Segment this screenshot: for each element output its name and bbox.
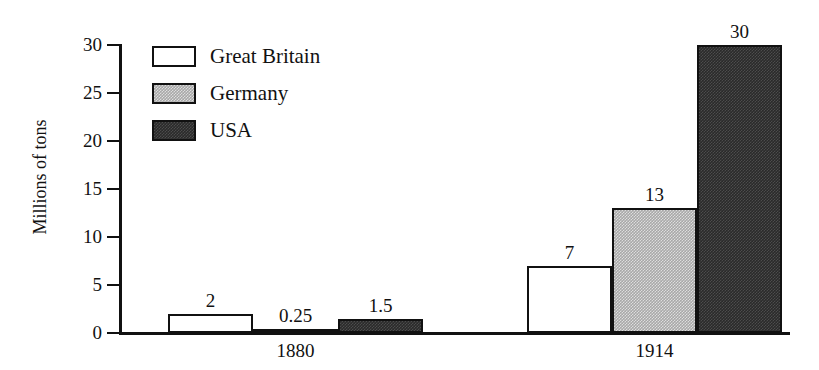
y-axis-tick [107, 140, 120, 142]
bar-1880-usa [338, 319, 423, 333]
bar-value-label: 1.5 [338, 296, 423, 315]
y-axis-tick-label: 20 [32, 131, 102, 150]
y-axis-tick-label-wrap: 25 [22, 83, 102, 102]
x-axis-group-label-1914: 1914 [595, 341, 715, 360]
legend-swatch-icon [152, 120, 196, 141]
bar-value-label: 2 [168, 291, 253, 310]
y-axis-tick-label-wrap: 20 [22, 131, 102, 150]
y-axis-tick [107, 236, 120, 238]
y-axis-tick-label-wrap: 15 [22, 179, 102, 198]
y-axis-tick-label: 30 [32, 35, 102, 54]
y-axis-tick-label-wrap: 5 [22, 275, 102, 294]
y-axis-tick-label: 5 [32, 275, 102, 294]
y-axis-tick-label-wrap: 0 [22, 323, 102, 342]
bar-value-label: 13 [612, 185, 697, 204]
legend-item-great-britain: Great Britain [152, 38, 320, 75]
legend-item-usa: USA [152, 112, 320, 149]
bar-value-label: 0.25 [253, 306, 338, 325]
legend-item-label: USA [210, 120, 252, 141]
x-axis-group-label-1880: 1880 [236, 341, 356, 360]
y-axis-tick [107, 284, 120, 286]
bar-value-label: 7 [527, 243, 612, 262]
legend-item-label: Germany [210, 83, 288, 104]
y-axis-tick [107, 92, 120, 94]
y-axis-tick [107, 188, 120, 190]
y-axis-tick-label: 25 [32, 83, 102, 102]
bar-value-label: 30 [697, 22, 782, 41]
y-axis-tick-label: 10 [32, 227, 102, 246]
legend-swatch-icon [152, 46, 196, 67]
y-axis-tick [107, 44, 120, 46]
bar-1914-usa [697, 45, 782, 333]
y-axis-tick-label-wrap: 10 [22, 227, 102, 246]
legend-swatch-icon [152, 83, 196, 104]
y-axis-tick-label-wrap: 30 [22, 35, 102, 54]
bar-1914-germany [612, 208, 697, 333]
bar-chart: Millions of tons 302520151050 Great Brit… [0, 0, 819, 370]
legend: Great BritainGermanyUSA [152, 38, 320, 149]
y-axis-tick [107, 332, 120, 334]
y-axis-tick-label: 0 [32, 323, 102, 342]
bar-1880-germany [253, 329, 338, 333]
y-axis-tick-label: 15 [32, 179, 102, 198]
bar-1914-great-britain [527, 266, 612, 333]
legend-item-label: Great Britain [210, 46, 320, 67]
bar-1880-great-britain [168, 314, 253, 333]
legend-item-germany: Germany [152, 75, 320, 112]
